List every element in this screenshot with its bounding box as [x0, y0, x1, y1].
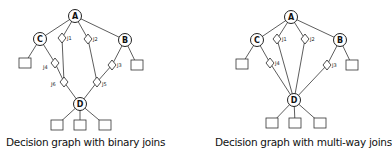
join-j3: J3 — [108, 60, 122, 70]
multiway-joins-caption: Decision graph with multi-way joins — [215, 136, 392, 148]
multiway-joins-graph: J1 J2 J3 J4 A C — [236, 11, 358, 129]
leaf-node — [99, 120, 111, 130]
join-j6: J6 — [50, 77, 68, 87]
leaf-nodes — [236, 59, 358, 128]
leaf-node — [19, 58, 31, 68]
leaf-node — [289, 118, 301, 128]
leaf-node — [266, 118, 278, 128]
node-c: C — [34, 33, 47, 46]
binary-joins-caption: Decision graph with binary joins — [6, 136, 165, 148]
leaf-node — [236, 59, 248, 69]
svg-text:A: A — [288, 13, 295, 22]
binary-joins-graph: J1 J2 J3 J4 J5 J6 — [19, 10, 143, 131]
node-b: B — [334, 34, 347, 47]
leaf-nodes — [19, 58, 143, 130]
node-d: D — [74, 98, 87, 111]
join-j4: J4 — [42, 58, 59, 70]
node-a: A — [285, 11, 298, 24]
svg-text:J4: J4 — [274, 60, 280, 66]
leaf-node — [314, 118, 326, 128]
node-a: A — [69, 10, 82, 23]
node-d: D — [288, 94, 301, 107]
node-c: C — [251, 34, 264, 47]
svg-text:J6: J6 — [50, 81, 56, 87]
join-j1: J1 — [273, 34, 287, 44]
decision-nodes: A C B D — [34, 10, 132, 111]
join-nodes: J1 J2 J3 J4 J5 J6 — [42, 33, 122, 87]
leaf-node — [346, 60, 358, 70]
decision-nodes: A C B D — [251, 11, 347, 107]
svg-text:J4: J4 — [42, 64, 48, 70]
svg-text:J3: J3 — [331, 62, 337, 68]
join-nodes: J1 J2 J3 J4 — [266, 34, 337, 70]
svg-text:J5: J5 — [101, 81, 107, 87]
join-j1: J1 — [58, 33, 72, 43]
join-j3: J3 — [323, 60, 337, 70]
leaf-node — [51, 120, 63, 130]
edges — [242, 17, 352, 123]
svg-text:J1: J1 — [66, 35, 72, 41]
svg-text:A: A — [72, 12, 79, 21]
svg-text:D: D — [77, 100, 84, 109]
svg-text:J2: J2 — [92, 36, 98, 42]
leaf-node — [74, 120, 86, 130]
svg-text:C: C — [37, 35, 43, 44]
svg-text:B: B — [337, 36, 343, 45]
svg-text:J1: J1 — [281, 36, 287, 42]
svg-text:C: C — [254, 36, 260, 45]
svg-text:D: D — [291, 96, 298, 105]
node-b: B — [119, 34, 132, 47]
svg-text:J2: J2 — [309, 36, 315, 42]
leaf-node — [131, 60, 143, 70]
svg-text:B: B — [122, 36, 128, 45]
svg-text:J3: J3 — [116, 62, 122, 68]
